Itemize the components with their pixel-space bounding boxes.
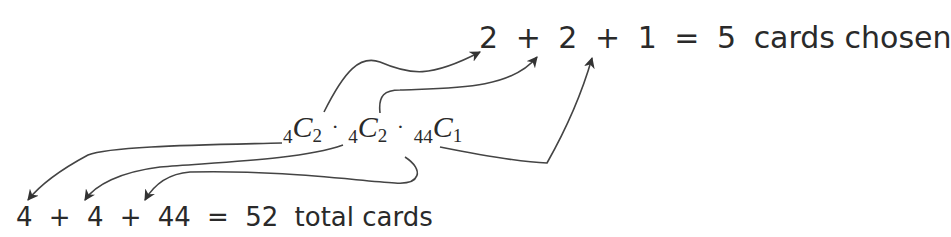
bottom-result: 52 xyxy=(245,202,278,232)
combination-symbol: C xyxy=(433,110,453,143)
top-term-1: 2 xyxy=(479,20,498,55)
top-label: cards chosen xyxy=(754,20,951,55)
n-value-3: 44 xyxy=(414,126,433,147)
equals-sign: = xyxy=(207,202,229,232)
bottom-term-1: 4 xyxy=(16,202,33,232)
equals-sign: = xyxy=(674,20,699,55)
n-value-1: 4 xyxy=(283,126,293,147)
n-value-2: 4 xyxy=(348,126,358,147)
plus-sign: + xyxy=(120,202,142,232)
chosen-cards-equation: 2 + 2 + 1 = 5 cards chosen xyxy=(479,20,951,55)
plus-sign: + xyxy=(49,202,71,232)
top-term-2: 2 xyxy=(558,20,577,55)
bottom-term-3: 44 xyxy=(158,202,191,232)
total-cards-equation: 4 + 4 + 44 = 52 total cards xyxy=(16,202,433,232)
combination-product-expression: 4C2 · 4C2 · 44C1 xyxy=(283,110,462,147)
k-value-2: 2 xyxy=(378,125,388,146)
top-term-3: 1 xyxy=(638,20,657,55)
bottom-term-2: 4 xyxy=(87,202,104,232)
plus-sign: + xyxy=(516,20,541,55)
arrow-k1-to-top xyxy=(324,52,480,112)
combination-symbol: C xyxy=(293,110,313,143)
top-result: 5 xyxy=(717,20,736,55)
arrow-n3-to-bottom xyxy=(145,157,417,200)
multiply-dot: · xyxy=(397,114,404,139)
k-value-1: 2 xyxy=(313,125,323,146)
multiply-dot: · xyxy=(332,114,339,139)
combination-symbol: C xyxy=(358,110,378,143)
arrow-k2-to-top xyxy=(380,57,537,113)
bottom-label: total cards xyxy=(295,202,433,232)
plus-sign: + xyxy=(595,20,620,55)
k-value-3: 1 xyxy=(453,125,463,146)
